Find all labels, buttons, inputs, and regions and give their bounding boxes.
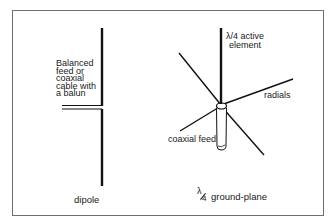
antenna-drawing [0, 0, 335, 223]
radial-upper-left [179, 53, 221, 105]
radial-lower-left [180, 106, 221, 131]
quarter-wave-fraction: λ 4 [197, 190, 208, 204]
dipole-title: dipole [74, 196, 99, 204]
ground-plane-title: λ 4 ground-plane [197, 190, 267, 204]
dipole-antenna [62, 28, 102, 186]
radial-lower-right [221, 106, 264, 155]
active-label-line: element [226, 41, 264, 50]
radials-label: radials [264, 92, 291, 100]
dipole-feed-label: Balanced feed or coaxial cable with a ba… [56, 60, 102, 98]
coaxial-feed-cable [217, 108, 227, 150]
active-element-label: λ/4 active element [226, 32, 264, 50]
feed-label-line: a balun [56, 90, 102, 98]
fraction-denominator: 4 [202, 195, 206, 203]
coaxial-feed-label: coaxial feed [168, 136, 216, 144]
fraction-numerator: λ [197, 188, 202, 196]
ground-plane-title-text: ground-plane [211, 191, 267, 202]
